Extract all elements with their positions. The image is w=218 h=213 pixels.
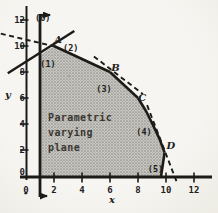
vertex-label-B: B bbox=[110, 62, 119, 73]
x-axis-label: x bbox=[108, 194, 116, 205]
y-tick-label-8: 8 bbox=[20, 67, 25, 77]
x-tick-label-10: 10 bbox=[161, 185, 172, 195]
region-text-line-1: Parametric bbox=[48, 112, 112, 123]
y-tick-label-4: 4 bbox=[20, 119, 26, 129]
y-axis-label: y bbox=[4, 89, 12, 100]
objective-line-through-A bbox=[1, 34, 58, 48]
x-tick-label-8: 8 bbox=[135, 185, 140, 195]
vertex-label-A: A bbox=[53, 34, 62, 45]
x-tick-label-4: 4 bbox=[79, 185, 85, 195]
y-tick-label-2: 2 bbox=[20, 145, 25, 155]
constraint-label-2: (2) bbox=[63, 43, 78, 53]
y-tick-label-0: 0 bbox=[20, 167, 25, 177]
y-tick-label-12: 12 bbox=[14, 15, 25, 25]
scanned-figure-page: 024681012024681012(1)(2)(3)(4)(5)(6)ABCD… bbox=[0, 0, 218, 213]
region-text-line-3: plane bbox=[48, 142, 80, 153]
scan-speck bbox=[68, 75, 70, 77]
vertex-label-C: C bbox=[138, 92, 146, 103]
constraint-label-6: (6) bbox=[35, 13, 50, 23]
y-tick-label-10: 10 bbox=[14, 41, 25, 51]
stray-dash-artifact: - bbox=[23, 188, 28, 198]
x-tick-label-2: 2 bbox=[51, 185, 56, 195]
constraint-label-1: (1) bbox=[40, 59, 55, 69]
y-tick-label-6: 6 bbox=[20, 93, 25, 103]
constraint-label-4: (4) bbox=[136, 127, 151, 137]
region-text-line-2: varying bbox=[48, 127, 93, 138]
x-tick-label-12: 12 bbox=[189, 185, 200, 195]
parametric-plane-figure: 024681012024681012(1)(2)(3)(4)(5)(6)ABCD… bbox=[0, 0, 218, 213]
vertex-label-D: D bbox=[166, 140, 176, 151]
constraint-label-3: (3) bbox=[96, 84, 111, 94]
constraint-label-5: (5) bbox=[148, 164, 163, 174]
